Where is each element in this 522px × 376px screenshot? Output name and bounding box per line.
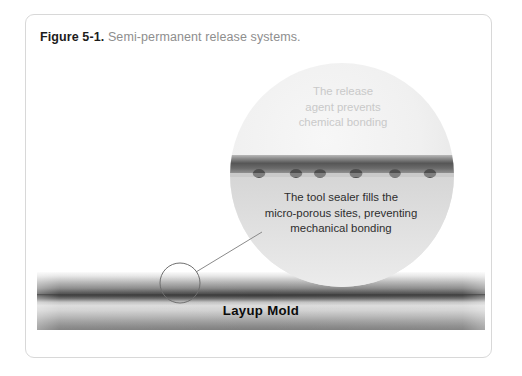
figure-root: Figure 5-1. Semi-permanent release syste… — [0, 0, 522, 376]
release-agent-annotation: The release agent prevents chemical bond… — [272, 84, 414, 131]
release-agent-annotation-line-3: chemical bonding — [272, 115, 414, 131]
tool-sealer-annotation-line-3: mechanical bonding — [243, 221, 439, 237]
tool-sealer-annotation-line-1: The tool sealer fills the — [243, 190, 439, 206]
figure-caption-text: Semi-permanent release systems. — [108, 30, 301, 44]
figure-caption: Figure 5-1. Semi-permanent release syste… — [40, 30, 301, 44]
figure-caption-label: Figure 5-1. — [40, 30, 104, 44]
release-agent-annotation-line-2: agent prevents — [272, 100, 414, 116]
tool-sealer-annotation: The tool sealer fills the micro-porous s… — [243, 190, 439, 237]
release-agent-annotation-line-1: The release — [272, 84, 414, 100]
tool-sealer-annotation-line-2: micro-porous sites, preventing — [243, 206, 439, 222]
layup-mold-label: Layup Mold — [37, 303, 485, 318]
